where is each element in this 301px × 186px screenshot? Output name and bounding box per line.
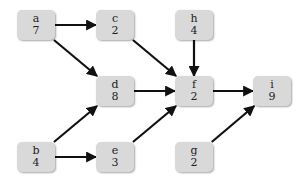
node-value: 2 (191, 157, 198, 169)
node-value: 4 (191, 25, 198, 37)
node-f: f2 (175, 76, 213, 106)
node-h: h4 (175, 10, 213, 40)
node-a: a7 (17, 10, 55, 40)
edge-c-to-f (133, 40, 176, 76)
node-value: 2 (191, 91, 198, 103)
node-e: e3 (96, 142, 134, 172)
edge-e-to-f (133, 106, 176, 142)
node-value: 8 (112, 91, 119, 103)
node-value: 4 (33, 157, 40, 169)
node-b: b4 (17, 142, 55, 172)
node-i: i9 (253, 76, 291, 106)
node-value: 7 (33, 25, 40, 37)
edge-b-to-d (54, 106, 97, 142)
node-value: 9 (269, 91, 276, 103)
node-d: d8 (96, 76, 134, 106)
edge-g-to-i (212, 106, 255, 142)
node-value: 2 (112, 25, 119, 37)
edge-a-to-d (54, 40, 97, 76)
node-g: g2 (175, 142, 213, 172)
node-value: 3 (112, 157, 119, 169)
node-c: c2 (96, 10, 134, 40)
